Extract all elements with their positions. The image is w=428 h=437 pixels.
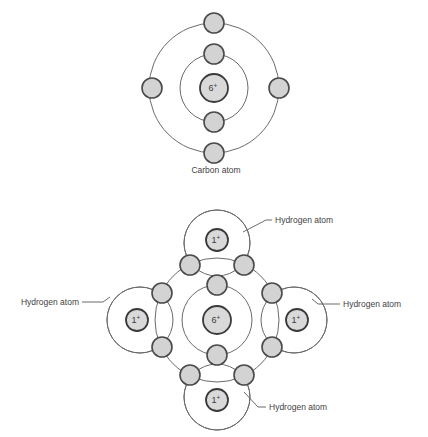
hydrogen-bottom-label: Hydrogen atom (269, 402, 327, 412)
hydrogen-right-nucleus-charge-sign: + (297, 314, 301, 321)
hydrogen-right-label: Hydrogen atom (343, 299, 401, 309)
bond-electron-left-bottom (152, 337, 172, 357)
bond-electron-top-right (234, 255, 254, 275)
bond-electron-bottom-right (234, 365, 254, 385)
carbon-outer-electron-top (204, 13, 224, 33)
hydrogen-top-label: Hydrogen atom (275, 215, 333, 225)
bond-electron-right-bottom (262, 337, 282, 357)
bond-electron-right-top (262, 283, 282, 303)
bond-electron-left-top (152, 283, 172, 303)
carbon-atom-caption: Carbon atom (191, 165, 240, 175)
methane-carbon-inner-electron-top (207, 275, 227, 295)
hydrogen-top-leader-line (243, 220, 272, 232)
hydrogen-left-label: Hydrogen atom (21, 297, 79, 307)
methane-carbon-inner-electron-bottom (207, 345, 227, 365)
carbon-atom-figure: 6+ Carbon atom (142, 13, 289, 175)
hydrogen-left-nucleus-charge-sign: + (137, 314, 141, 321)
carbon-inner-electron-top (204, 44, 224, 64)
bond-electron-bottom-left (180, 365, 200, 385)
carbon-outer-electron-bottom (204, 143, 224, 163)
hydrogen-top-nucleus-charge-sign: + (217, 234, 221, 241)
carbon-inner-electron-bottom (204, 112, 224, 132)
diagram-canvas: 6+ Carbon atom 6+ (0, 0, 428, 437)
bond-electron-top-left (180, 255, 200, 275)
chemistry-diagram: 6+ Carbon atom 6+ (0, 0, 428, 437)
methane-molecule-figure: 6+ 1+ 1+ 1+ 1+ Hydrogen atom Hydrogen (21, 210, 401, 430)
hydrogen-left-leader-line (82, 297, 110, 302)
carbon-outer-electron-left (142, 78, 162, 98)
methane-carbon-nucleus-charge-sign: + (217, 314, 221, 321)
carbon-nucleus-charge-sign: + (214, 82, 218, 89)
carbon-outer-electron-right (269, 78, 289, 98)
hydrogen-bottom-nucleus-charge-sign: + (217, 394, 221, 401)
